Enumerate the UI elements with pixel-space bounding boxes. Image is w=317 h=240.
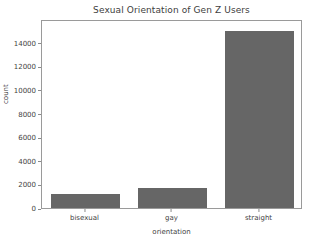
bar bbox=[225, 31, 295, 208]
y-axis-tick-label: 14000 bbox=[14, 40, 38, 48]
y-axis-tick-label: 12000 bbox=[14, 63, 38, 71]
y-axis-tick-label: 6000 bbox=[18, 134, 38, 142]
x-axis-tick: bisexual bbox=[70, 209, 99, 222]
y-axis-tick: 0 bbox=[32, 204, 41, 214]
x-axis-tick: straight bbox=[245, 209, 272, 222]
chart-figure: Sexual Orientation of Gen Z Users 020004… bbox=[0, 0, 317, 240]
y-axis-tick-label: 8000 bbox=[18, 111, 38, 119]
y-axis-tick: 14000 bbox=[14, 39, 41, 49]
y-axis-tick-label: 2000 bbox=[18, 181, 38, 189]
x-axis-label: orientation bbox=[41, 228, 302, 236]
y-axis-tick: 6000 bbox=[18, 133, 41, 143]
y-axis-tick: 4000 bbox=[18, 157, 41, 167]
x-axis-tick-label: gay bbox=[165, 214, 178, 222]
y-axis: 02000400060008000100001200014000 bbox=[0, 0, 41, 240]
y-axis-tick: 8000 bbox=[18, 110, 41, 120]
y-axis-tick-label: 4000 bbox=[18, 158, 38, 166]
x-axis-tick-mark bbox=[258, 209, 259, 212]
y-axis-tick: 2000 bbox=[18, 180, 41, 190]
x-axis-tick-mark bbox=[171, 209, 172, 212]
x-axis-tick-label: straight bbox=[245, 214, 272, 222]
bars-layer bbox=[42, 21, 301, 208]
chart-title: Sexual Orientation of Gen Z Users bbox=[41, 5, 302, 15]
bar bbox=[138, 188, 208, 208]
x-axis-tick: gay bbox=[165, 209, 178, 222]
y-axis-label: count bbox=[2, 84, 10, 104]
plot-area bbox=[41, 20, 302, 209]
x-axis-tick-mark bbox=[84, 209, 85, 212]
y-axis-tick: 12000 bbox=[14, 62, 41, 72]
y-axis-tick-label: 10000 bbox=[14, 87, 38, 95]
y-axis-tick: 10000 bbox=[14, 86, 41, 96]
bar bbox=[51, 194, 121, 208]
x-axis-tick-label: bisexual bbox=[70, 214, 99, 222]
